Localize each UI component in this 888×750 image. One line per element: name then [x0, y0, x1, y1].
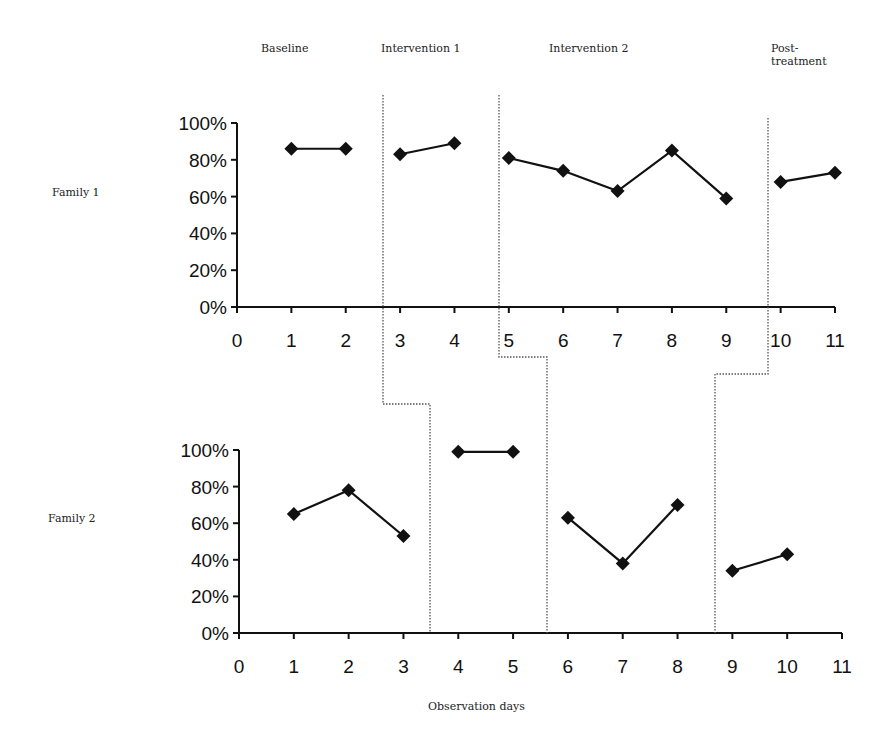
x-tick-label: 7: [612, 330, 623, 351]
series-line: [732, 554, 787, 570]
x-tick-label: 5: [504, 330, 515, 351]
series-line: [568, 505, 678, 564]
y-tick-label: 40%: [189, 223, 227, 244]
x-tick-label: 6: [558, 330, 569, 351]
x-tick-label: 10: [777, 656, 798, 677]
diamond-marker: [828, 166, 842, 180]
x-tick-label: 9: [727, 656, 738, 677]
y-tick-label: 100%: [180, 440, 229, 461]
diamond-marker: [780, 547, 794, 561]
y-tick-label: 20%: [189, 260, 227, 281]
diamond-marker: [393, 147, 407, 161]
diamond-marker: [506, 445, 520, 459]
y-tick-label: 60%: [191, 513, 229, 534]
diamond-marker: [339, 142, 353, 156]
x-tick-label: 4: [449, 330, 460, 351]
x-tick-label: 3: [395, 330, 406, 351]
y-tick-label: 0%: [200, 297, 228, 318]
x-tick-label: 1: [286, 330, 297, 351]
y-tick-label: 80%: [189, 150, 227, 171]
x-tick-label: 0: [234, 656, 245, 677]
x-tick-label: 1: [289, 656, 300, 677]
diamond-marker: [284, 142, 298, 156]
x-tick-label: 11: [825, 330, 845, 351]
x-tick-label: 4: [453, 656, 464, 677]
panel-family-1: 0%20%40%60%80%100%01234567891011: [178, 113, 844, 351]
x-tick-label: 11: [832, 656, 852, 677]
diamond-marker: [774, 175, 788, 189]
series-line: [781, 173, 835, 182]
x-tick-label: 6: [563, 656, 574, 677]
y-tick-label: 20%: [191, 586, 229, 607]
diamond-marker: [556, 164, 570, 178]
diamond-marker: [451, 445, 465, 459]
single-case-design-chart: Baseline Intervention 1 Intervention 2 P…: [0, 0, 888, 750]
y-tick-label: 80%: [191, 477, 229, 498]
x-tick-label: 0: [232, 330, 243, 351]
x-tick-label: 3: [398, 656, 409, 677]
x-tick-label: 5: [508, 656, 519, 677]
x-tick-label: 8: [672, 656, 683, 677]
x-tick-label: 2: [343, 656, 354, 677]
x-tick-label: 9: [721, 330, 732, 351]
x-tick-label: 10: [770, 330, 791, 351]
y-tick-label: 40%: [191, 550, 229, 571]
y-tick-label: 60%: [189, 187, 227, 208]
x-tick-label: 7: [617, 656, 628, 677]
x-tick-label: 8: [667, 330, 678, 351]
diamond-marker: [287, 507, 301, 521]
y-tick-label: 100%: [178, 113, 227, 134]
series-line: [400, 143, 454, 154]
y-tick-label: 0%: [202, 623, 230, 644]
x-tick-label: 2: [340, 330, 351, 351]
plot-area: 0%20%40%60%80%100%012345678910110%20%40%…: [0, 0, 888, 750]
diamond-marker: [725, 564, 739, 578]
phase-change-line-2: [499, 95, 547, 633]
diamond-marker: [502, 151, 516, 165]
panel-family-2: 0%20%40%60%80%100%01234567891011: [180, 440, 851, 677]
diamond-marker: [447, 136, 461, 150]
phase-change-line-1: [383, 95, 430, 633]
